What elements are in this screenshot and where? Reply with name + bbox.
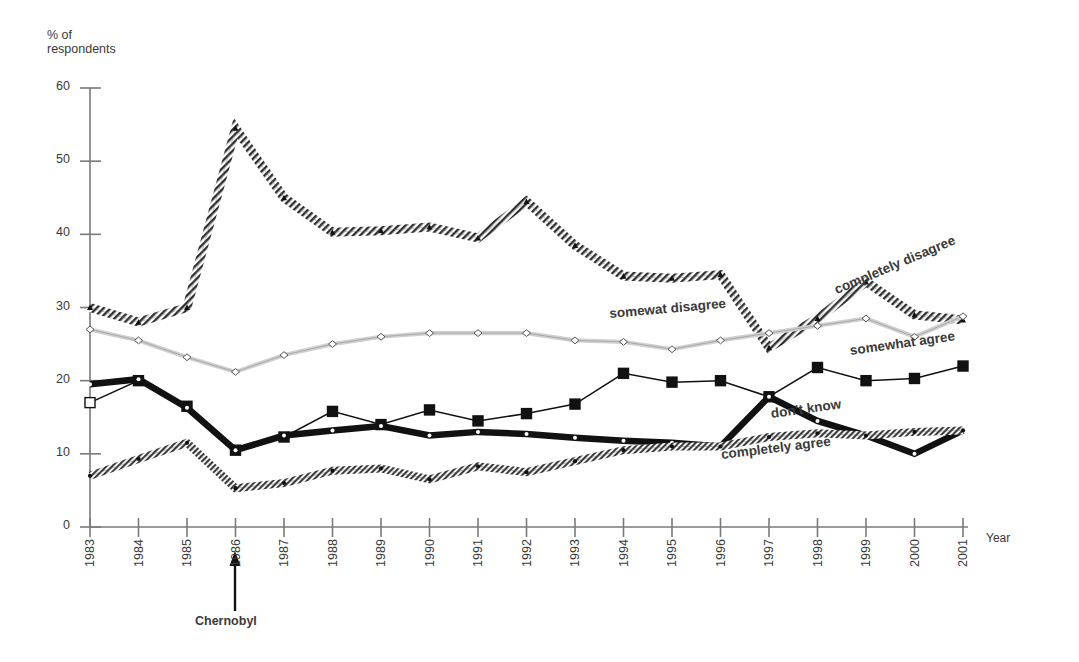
y-tick-label: 40 [36,225,70,239]
series-somewhat-disagree [86,313,967,375]
data-point [85,398,95,408]
y-tick-label: 50 [36,152,70,166]
y-axis-title-line2: respondents [47,42,116,56]
data-point [573,436,577,440]
x-tick-label-1994: 1994 [617,529,631,577]
data-point [667,377,677,387]
x-tick-label-1990: 1990 [423,529,437,577]
data-point [476,430,480,434]
x-tick-label-1998: 1998 [811,529,825,577]
data-point [910,373,920,383]
data-point [524,470,528,474]
data-point [716,376,726,386]
data-point [379,424,383,428]
series-completely-disagree [87,125,966,350]
data-point [670,444,674,448]
y-tick-label: 20 [36,372,70,386]
y-tick-label: 10 [36,445,70,459]
data-point [330,469,334,473]
data-point [234,448,238,452]
data-point [473,416,483,426]
x-tick-label-1993: 1993 [568,529,582,577]
x-tick-label-1996: 1996 [714,529,728,577]
data-point [427,477,431,481]
data-point [282,481,286,485]
data-point [621,448,625,452]
x-tick-label-1992: 1992 [520,529,534,577]
data-point [185,406,189,410]
data-point [861,376,871,386]
chart-container: % of respondents Year 0102030405060 1983… [0,0,1079,662]
data-point [233,486,237,490]
x-tick-label-1997: 1997 [762,529,776,577]
data-point [476,464,480,468]
x-tick-label-1995: 1995 [665,529,679,577]
data-point [379,466,383,470]
data-point [136,457,140,461]
data-point [912,430,916,434]
data-point [913,452,917,456]
x-tick-label-1989: 1989 [374,529,388,577]
x-tick-label-1988: 1988 [326,529,340,577]
y-tick-label: 60 [36,79,70,93]
y-tick-label: 0 [36,518,70,532]
data-point [474,330,482,337]
data-point [619,368,629,378]
data-point [428,434,432,438]
data-point [522,409,532,419]
data-point [573,459,577,463]
x-tick-label-2000: 2000 [908,529,922,577]
data-point [767,395,771,399]
x-tick-label-1991: 1991 [471,529,485,577]
y-tick-label: 30 [36,299,70,313]
data-point [282,434,286,438]
data-point [328,406,338,416]
data-point [426,330,434,337]
x-tick-label-1986: 1986 [229,529,243,577]
data-point [525,432,529,436]
data-point [137,377,141,381]
x-tick-label-1999: 1999 [859,529,873,577]
x-tick-label-1984: 1984 [132,529,146,577]
x-tick-label-1983: 1983 [83,529,97,577]
data-point [185,441,189,445]
annotation-chernobyl-label: Chernobyl [195,614,257,628]
x-tick-label-1985: 1985 [180,529,194,577]
y-axis-title: % of respondents [47,28,116,56]
data-point [816,419,820,423]
x-tick-label-2001: 2001 [956,529,970,577]
x-axis-title: Year [986,531,1010,545]
data-point [88,382,92,386]
data-point [331,428,335,432]
data-point [767,435,771,439]
x-tick-label-1987: 1987 [277,529,291,577]
data-point [961,428,965,432]
data-point [813,362,823,372]
data-point [425,405,435,415]
data-point [570,399,580,409]
data-point [622,439,626,443]
data-point [958,361,968,371]
series-layer [85,125,968,490]
data-point [864,433,868,437]
data-point [88,474,92,478]
y-axis-title-line1: % of [47,28,116,42]
